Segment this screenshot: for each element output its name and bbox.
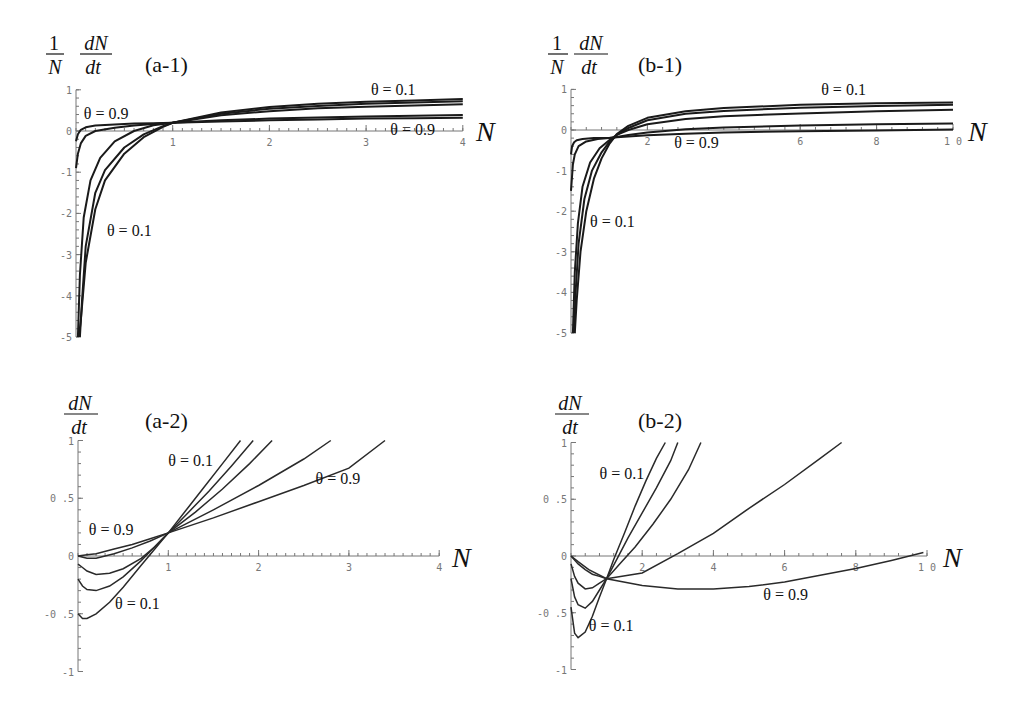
panel-a-1: 1 N dN dt (a-1) N 10-1-2-3-4-51234θ = 0.… <box>46 32 496 343</box>
y-tick-label: 1 <box>66 85 72 96</box>
y-tick-label: -3 <box>60 250 72 261</box>
y-tick-label: 0 <box>66 126 72 137</box>
y-tick-label: 1 <box>68 436 74 447</box>
y-tick-label: -1 <box>555 665 567 676</box>
x-tick-label: 6 <box>797 136 803 147</box>
panel-tag: (b-2) <box>638 408 682 433</box>
panel-b-2: dN dt (b-2) N 10 .50-0 .5-124681 0θ = 0.… <box>537 392 963 676</box>
plot-area: 10-1-2-3-4-52681 0θ = 0.1θ = 0.9θ = 0.1 <box>555 81 962 339</box>
theta-annotation: θ = 0.9 <box>674 134 719 151</box>
figure: 1 N dN dt (a-1) N 10-1-2-3-4-51234θ = 0.… <box>0 0 1021 718</box>
x-tick-label: 2 <box>266 137 272 148</box>
x-tick-label: 4 <box>460 137 466 148</box>
x-tick-label: 8 <box>874 136 880 147</box>
ylabel-dn: dN <box>68 392 93 414</box>
ylabel-dt: dt <box>85 56 101 78</box>
x-tick-label: 2 <box>256 562 262 573</box>
x-tick-label: 3 <box>363 137 369 148</box>
x-axis-label: N <box>942 542 963 573</box>
ylabel-dt: dt <box>562 416 578 438</box>
y-tick-label: 0 .5 <box>50 493 74 504</box>
y-tick-label: 0 <box>68 551 74 562</box>
x-tick-label: 6 <box>782 562 788 573</box>
x-tick-label: 2 <box>644 136 650 147</box>
plot-area: 10-1-2-3-4-51234θ = 0.1θ = 0.9θ = 0.9θ =… <box>60 81 466 343</box>
y-tick-label: -0 .5 <box>44 609 74 620</box>
curve-0.9 <box>78 441 385 557</box>
y-tick-label: 0 <box>561 125 567 136</box>
y-tick-label: -1 <box>62 667 74 678</box>
x-tick-label: 4 <box>436 562 442 573</box>
y-tick-label: -3 <box>555 247 567 258</box>
panel-tag: (a-2) <box>145 408 188 433</box>
panel-tag: (a-1) <box>145 52 188 77</box>
y-tick-label: -5 <box>60 332 72 343</box>
y-tick-label: -1 <box>555 166 567 177</box>
curve-0.7 <box>571 443 842 579</box>
ylabel-dn: dN <box>579 32 604 54</box>
x-axis-label: N <box>967 116 988 147</box>
curve-0.7 <box>571 124 953 191</box>
ylabel-one: 1 <box>49 32 59 54</box>
x-tick-label: 1 0 <box>918 562 936 573</box>
theta-annotation: θ = 0.9 <box>763 586 808 603</box>
y-tick-label: -5 <box>555 328 567 339</box>
y-tick-label: -2 <box>60 208 72 219</box>
x-tick-label: 3 <box>346 562 352 573</box>
theta-annotation: θ = 0.1 <box>821 81 866 98</box>
x-tick-label: 1 <box>165 562 171 573</box>
y-tick-label: 0 <box>561 551 567 562</box>
theta-annotation: θ = 0.1 <box>371 81 416 98</box>
x-tick-label: 1 <box>170 137 176 148</box>
theta-annotation: θ = 0.9 <box>84 105 129 122</box>
y-tick-label: -4 <box>555 287 567 298</box>
y-tick-label: -0 .5 <box>537 608 567 619</box>
ylabel-dt: dt <box>581 56 597 78</box>
theta-annotation: θ = 0.1 <box>590 213 635 230</box>
plot-area: 10 .50-0 .5-124681 0θ = 0.1θ = 0.9θ = 0.… <box>537 438 936 676</box>
theta-annotation: θ = 0.9 <box>390 121 435 138</box>
y-tick-label: 1 <box>561 84 567 95</box>
theta-annotation: θ = 0.1 <box>107 222 152 239</box>
ylabel-n: N <box>549 56 565 78</box>
x-tick-label: 1 0 <box>944 136 962 147</box>
ylabel-dn: dN <box>558 392 583 414</box>
y-tick-label: 0 .5 <box>543 494 567 505</box>
theta-annotation: θ = 0.1 <box>599 465 644 482</box>
panel-tag: (b-1) <box>638 52 682 77</box>
panel-a-2: dN dt (a-2) N 10 .50-0 .5-11234θ = 0.1θ … <box>44 392 472 678</box>
y-tick-label: -1 <box>60 167 72 178</box>
curve-0.9 <box>571 553 923 589</box>
y-tick-label: 1 <box>561 438 567 449</box>
panel-b-1: 1 N dN dt (b-1) N 10-1-2-3-4-52681 0θ = … <box>548 32 988 339</box>
plot-area: 10 .50-0 .5-11234θ = 0.1θ = 0.9θ = 0.9θ … <box>44 436 442 678</box>
curve-0.9 <box>571 130 953 155</box>
ylabel-one: 1 <box>552 32 562 54</box>
theta-annotation: θ = 0.9 <box>89 521 134 538</box>
x-axis-label: N <box>451 542 472 573</box>
x-axis-label: N <box>475 116 496 147</box>
theta-annotation: θ = 0.1 <box>589 617 634 634</box>
theta-annotation: θ = 0.9 <box>315 470 360 487</box>
theta-annotation: θ = 0.1 <box>115 595 160 612</box>
y-tick-label: -2 <box>555 206 567 217</box>
ylabel-n: N <box>47 56 63 78</box>
y-tick-label: -4 <box>60 291 72 302</box>
x-tick-label: 4 <box>710 562 716 573</box>
theta-annotation: θ = 0.1 <box>168 452 213 469</box>
ylabel-dn: dN <box>84 32 109 54</box>
